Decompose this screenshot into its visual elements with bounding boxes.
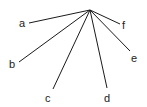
ray-label-f: f bbox=[122, 19, 126, 31]
ray-line-c bbox=[53, 10, 90, 89]
ray-d: d bbox=[90, 10, 110, 104]
radiating-lines-diagram: a b c d e f bbox=[0, 0, 147, 107]
ray-label-d: d bbox=[104, 92, 110, 104]
ray-c: c bbox=[45, 10, 90, 104]
ray-label-a: a bbox=[19, 17, 26, 29]
ray-line-d bbox=[90, 10, 107, 88]
ray-label-c: c bbox=[45, 92, 51, 104]
ray-e: e bbox=[90, 10, 137, 64]
ray-a: a bbox=[19, 10, 90, 29]
ray-label-b: b bbox=[9, 58, 15, 70]
ray-line-f bbox=[90, 10, 120, 24]
ray-label-e: e bbox=[131, 52, 137, 64]
